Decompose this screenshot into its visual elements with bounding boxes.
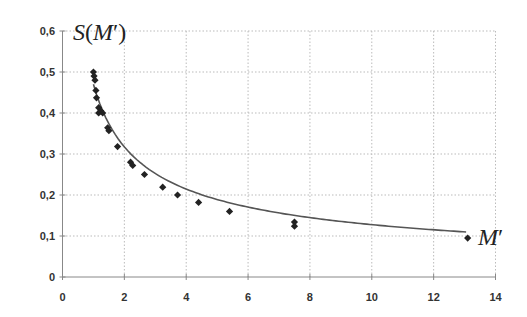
data-point-diamond bbox=[195, 199, 202, 206]
data-point-diamond bbox=[141, 171, 148, 178]
axes bbox=[60, 31, 496, 280]
data-point-diamond bbox=[92, 87, 99, 94]
x-tick-label: 14 bbox=[489, 291, 502, 303]
x-tick-label: 12 bbox=[428, 291, 440, 303]
x-tick-label: 10 bbox=[366, 291, 378, 303]
y-tick-label: 0,2 bbox=[40, 189, 55, 201]
y-tick-label: 0,6 bbox=[40, 25, 55, 37]
data-point-diamond bbox=[291, 223, 298, 230]
tick-labels: 0246810121400,10,20,30,40,50,6 bbox=[40, 25, 503, 303]
fit-line bbox=[93, 84, 466, 232]
data-point-diamond bbox=[159, 184, 166, 191]
data-point-diamond bbox=[226, 208, 233, 215]
y-tick-label: 0,1 bbox=[40, 230, 55, 242]
chart: 0246810121400,10,20,30,40,50,6 S(M′) M′ bbox=[0, 0, 527, 317]
data-points bbox=[90, 68, 471, 241]
x-tick-label: 2 bbox=[121, 291, 127, 303]
data-point-diamond bbox=[114, 143, 121, 150]
y-tick-label: 0 bbox=[49, 271, 55, 283]
fit-curve bbox=[93, 84, 466, 232]
data-point-diamond bbox=[174, 191, 181, 198]
x-axis-label: M′ bbox=[477, 224, 503, 250]
y-axis-label: S(M′) bbox=[73, 19, 126, 45]
x-tick-label: 4 bbox=[183, 291, 190, 303]
x-tick-label: 8 bbox=[307, 291, 313, 303]
y-tick-label: 0,3 bbox=[40, 148, 55, 160]
y-tick-label: 0,4 bbox=[40, 107, 56, 119]
y-tick-label: 0,5 bbox=[40, 66, 55, 78]
x-tick-label: 0 bbox=[59, 291, 65, 303]
x-tick-label: 6 bbox=[245, 291, 251, 303]
grid-lines bbox=[63, 31, 496, 277]
